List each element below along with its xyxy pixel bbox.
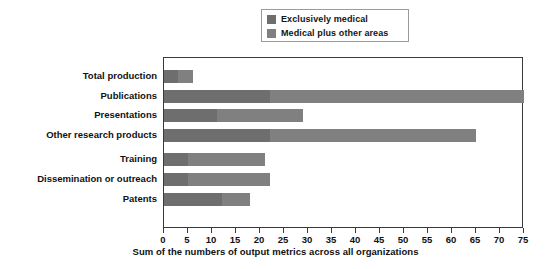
y-axis-tick-label: Patents bbox=[0, 192, 157, 205]
y-axis-tick-label: Total production bbox=[0, 69, 157, 82]
x-axis-tick bbox=[499, 228, 500, 233]
x-axis-tick bbox=[475, 228, 476, 233]
x-axis-tick-label: 30 bbox=[302, 234, 313, 245]
legend-item-label: Exclusively medical bbox=[281, 14, 368, 25]
bar-segment[interactable] bbox=[270, 129, 476, 142]
bar-segment[interactable] bbox=[178, 70, 192, 83]
x-axis-tick bbox=[163, 228, 164, 233]
x-axis-tick bbox=[523, 228, 524, 233]
bar-row[interactable] bbox=[164, 193, 250, 206]
bar-segment[interactable] bbox=[217, 109, 303, 122]
bar-segment[interactable] bbox=[222, 193, 251, 206]
bar-row[interactable] bbox=[164, 153, 265, 166]
bar-row[interactable] bbox=[164, 129, 476, 142]
x-axis-tick bbox=[283, 228, 284, 233]
y-axis-tick-label: Dissemination or outreach bbox=[0, 172, 157, 185]
bars-layer bbox=[164, 58, 522, 227]
bar-segment[interactable] bbox=[164, 129, 270, 142]
x-axis-title: Sum of the numbers of output metrics acr… bbox=[0, 246, 551, 257]
x-axis-tick-label: 5 bbox=[184, 234, 189, 245]
bar-segment[interactable] bbox=[164, 173, 188, 186]
chart-legend: Exclusively medical Medical plus other a… bbox=[261, 9, 409, 42]
bar-row[interactable] bbox=[164, 173, 270, 186]
x-axis-tick-label: 65 bbox=[470, 234, 481, 245]
x-axis-tick-label: 55 bbox=[422, 234, 433, 245]
x-axis-tick bbox=[259, 228, 260, 233]
x-axis-tick-label: 35 bbox=[326, 234, 337, 245]
y-axis-tick-label: Presentations bbox=[0, 108, 157, 121]
x-axis-tick bbox=[211, 228, 212, 233]
x-axis-tick-label: 15 bbox=[230, 234, 241, 245]
bar-segment[interactable] bbox=[164, 90, 270, 103]
x-axis-tick-label: 10 bbox=[206, 234, 217, 245]
bar-segment[interactable] bbox=[164, 193, 222, 206]
bar-row[interactable] bbox=[164, 70, 193, 83]
bar-row[interactable] bbox=[164, 90, 524, 103]
bar-segment[interactable] bbox=[188, 173, 270, 186]
x-axis-tick-label: 75 bbox=[518, 234, 529, 245]
legend-swatch-icon bbox=[267, 15, 276, 24]
x-axis-tick bbox=[331, 228, 332, 233]
x-axis-tick-label: 0 bbox=[160, 234, 165, 245]
bar-row[interactable] bbox=[164, 109, 303, 122]
legend-swatch-icon bbox=[267, 29, 276, 38]
bar-segment[interactable] bbox=[164, 70, 178, 83]
x-axis-tick bbox=[307, 228, 308, 233]
x-axis-tick bbox=[235, 228, 236, 233]
chart-container: Exclusively medical Medical plus other a… bbox=[0, 0, 551, 269]
y-axis-tick-label: Other research products bbox=[0, 128, 157, 141]
x-axis-tick-label: 25 bbox=[278, 234, 289, 245]
x-axis-tick-label: 50 bbox=[398, 234, 409, 245]
x-axis-tick-label: 60 bbox=[446, 234, 457, 245]
plot-area bbox=[163, 57, 523, 228]
x-axis-tick bbox=[187, 228, 188, 233]
bar-segment[interactable] bbox=[164, 109, 217, 122]
x-axis-tick bbox=[451, 228, 452, 233]
y-axis-tick-label: Training bbox=[0, 152, 157, 165]
x-axis-tick-label: 40 bbox=[350, 234, 361, 245]
x-axis-tick-label: 20 bbox=[254, 234, 265, 245]
x-axis-tick bbox=[427, 228, 428, 233]
x-axis-tick-label: 70 bbox=[494, 234, 505, 245]
x-axis: 051015202530354045505560657075 bbox=[163, 228, 523, 229]
y-axis-tick-label: Publications bbox=[0, 89, 157, 102]
x-axis-tick bbox=[355, 228, 356, 233]
legend-item-exclusively-medical[interactable]: Exclusively medical bbox=[267, 12, 404, 26]
legend-item-medical-plus-other-areas[interactable]: Medical plus other areas bbox=[267, 26, 404, 40]
legend-item-label: Medical plus other areas bbox=[281, 28, 388, 39]
bar-segment[interactable] bbox=[188, 153, 265, 166]
x-axis-tick bbox=[379, 228, 380, 233]
bar-segment[interactable] bbox=[164, 153, 188, 166]
x-axis-tick bbox=[403, 228, 404, 233]
bar-segment[interactable] bbox=[270, 90, 524, 103]
x-axis-tick-label: 45 bbox=[374, 234, 385, 245]
